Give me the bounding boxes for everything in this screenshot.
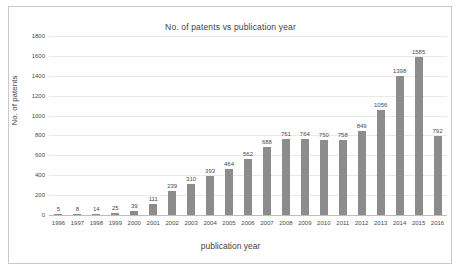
bar-group: 7922016 (428, 36, 447, 215)
bar-value-label: 761 (281, 131, 291, 137)
bar (358, 131, 366, 215)
bar-value-label: 792 (433, 128, 443, 134)
bar (54, 214, 62, 215)
bar (130, 211, 138, 215)
bar-group: 13982014 (390, 36, 409, 215)
x-axis-tick-label: 2005 (222, 220, 235, 226)
bar (111, 213, 119, 215)
bar-group: 7582011 (333, 36, 352, 215)
x-axis-tick-label: 2012 (355, 220, 368, 226)
bar-group: 392000 (125, 36, 144, 215)
bar-value-label: 688 (262, 139, 272, 145)
chart-figure: No. of patents vs publication year 02004… (0, 0, 461, 272)
x-axis-tick-label: 2010 (317, 220, 330, 226)
bar-group: 10562013 (371, 36, 390, 215)
bar-group: 15852015 (409, 36, 428, 215)
bar-group: 5622006 (239, 36, 258, 215)
bar-group: 6882007 (257, 36, 276, 215)
bar-value-label: 25 (112, 205, 119, 211)
x-axis-tick-label: 2013 (374, 220, 387, 226)
y-axis-tick-label: 400 (19, 172, 45, 178)
chart-title: No. of patents vs publication year (0, 22, 461, 32)
y-axis-tick-label: 800 (19, 132, 45, 138)
gridline (49, 215, 447, 216)
bar-value-label: 239 (167, 183, 177, 189)
bar (149, 204, 157, 215)
bar (244, 159, 252, 215)
bar-group: 7502010 (314, 36, 333, 215)
y-axis-tick-label: 600 (19, 152, 45, 158)
bar-value-label: 758 (338, 132, 348, 138)
bar-value-label: 764 (300, 131, 310, 137)
y-axis-tick-labels: 020040060080010001200140016001800 (17, 36, 45, 215)
x-axis-tick-label: 2000 (128, 220, 141, 226)
y-axis-tick-label: 1200 (19, 93, 45, 99)
bar-group: 3102003 (182, 36, 201, 215)
x-axis-tick-label: 2011 (336, 220, 349, 226)
bar (206, 176, 214, 215)
y-axis-tick-label: 1800 (19, 33, 45, 39)
x-axis-tick-label: 2004 (203, 220, 216, 226)
x-axis-tick-label: 1996 (52, 220, 65, 226)
x-axis-tick-label: 1998 (90, 220, 103, 226)
bar-group: 4642005 (220, 36, 239, 215)
bar (263, 147, 271, 215)
x-axis-tick-label: 2014 (393, 220, 406, 226)
bar-value-label: 310 (186, 176, 196, 182)
y-axis-tick-label: 1000 (19, 113, 45, 119)
x-axis-label: publication year (0, 241, 461, 251)
bar-value-label: 562 (243, 151, 253, 157)
bar-group: 81997 (68, 36, 87, 215)
bar-group: 1112001 (144, 36, 163, 215)
y-axis-tick-label: 200 (19, 192, 45, 198)
bar-value-label: 464 (224, 161, 234, 167)
bar (225, 169, 233, 215)
bar-value-label: 1585 (412, 49, 425, 55)
bar (282, 139, 290, 215)
bar (434, 136, 442, 215)
bar-value-label: 39 (131, 203, 138, 209)
bar-group: 8492012 (352, 36, 371, 215)
x-axis-tick-label: 2015 (412, 220, 425, 226)
x-axis-tick-label: 1999 (109, 220, 122, 226)
x-axis-tick-label: 2002 (165, 220, 178, 226)
bar-value-label: 849 (357, 123, 367, 129)
bar (168, 191, 176, 215)
x-axis-tick-label: 2008 (279, 220, 292, 226)
bar-group: 51996 (49, 36, 68, 215)
bar-value-label: 111 (149, 196, 158, 202)
bar-group: 2392002 (163, 36, 182, 215)
bar (415, 57, 423, 215)
y-axis-tick-label: 1600 (19, 53, 45, 59)
x-axis-tick-label: 1997 (71, 220, 84, 226)
bar (339, 140, 347, 215)
x-axis-tick-label: 2016 (431, 220, 444, 226)
x-axis-tick-label: 2003 (184, 220, 197, 226)
bar-value-label: 1056 (374, 102, 387, 108)
bar (396, 76, 404, 215)
bar-group: 7642009 (295, 36, 314, 215)
bar-value-label: 14 (93, 206, 100, 212)
bar-group: 141998 (87, 36, 106, 215)
bar-group: 251999 (106, 36, 125, 215)
bar-group: 3932004 (201, 36, 220, 215)
x-axis-tick-label: 2007 (260, 220, 273, 226)
plot-area: 5199681997141998251999392000111200123920… (49, 36, 447, 215)
bar (377, 110, 385, 215)
bar (320, 140, 328, 215)
bar-value-label: 5 (57, 206, 60, 212)
bar-value-label: 1398 (393, 68, 406, 74)
bar (187, 184, 195, 215)
bar (92, 214, 100, 215)
x-axis-tick-label: 2009 (298, 220, 311, 226)
bar (301, 139, 309, 215)
y-axis-label: No. of patents (10, 51, 19, 151)
bar-value-label: 393 (205, 168, 215, 174)
y-axis-tick-label: 0 (19, 212, 45, 218)
bar-value-label: 8 (76, 206, 79, 212)
bar (73, 214, 81, 215)
bar-group: 7612008 (276, 36, 295, 215)
y-axis-tick-label: 1400 (19, 73, 45, 79)
x-axis-tick-label: 2006 (241, 220, 254, 226)
bar-value-label: 750 (319, 132, 329, 138)
